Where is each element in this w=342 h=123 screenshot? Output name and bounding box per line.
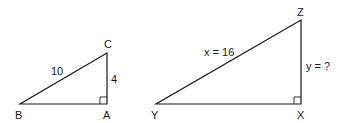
vertex-label-x: X bbox=[297, 109, 305, 121]
vertex-label-z: Z bbox=[297, 6, 304, 18]
right-angle-marker-x bbox=[294, 97, 301, 104]
vertex-label-b: B bbox=[15, 109, 22, 121]
vertex-label-y: Y bbox=[151, 109, 159, 121]
vertex-label-a: A bbox=[103, 109, 111, 121]
triangle-xyz: Z Y X x = 16 y = ? bbox=[151, 6, 330, 121]
vertex-label-c: C bbox=[104, 38, 112, 50]
right-angle-marker-a bbox=[100, 97, 107, 104]
side-label-xz: y = ? bbox=[306, 60, 330, 72]
side-label-yz: x = 16 bbox=[204, 46, 234, 58]
triangle-abc: C B A 10 4 bbox=[15, 38, 117, 121]
side-label-bc: 10 bbox=[51, 65, 63, 77]
triangle-xyz-outline bbox=[156, 20, 301, 104]
similar-triangles-diagram: C B A 10 4 Z Y X x = 16 y = ? bbox=[0, 0, 342, 123]
diagram-svg: C B A 10 4 Z Y X x = 16 y = ? bbox=[0, 0, 342, 123]
triangle-abc-outline bbox=[20, 53, 107, 104]
side-label-ac: 4 bbox=[111, 73, 117, 85]
